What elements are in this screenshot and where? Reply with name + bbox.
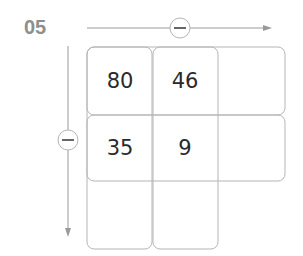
cell-r2-c3[interactable] [219,115,283,181]
horizontal-minus-icon [170,18,190,38]
vertical-minus-icon [58,130,78,150]
cell-r1-c1: 80 [88,48,152,114]
cell-r1-c3[interactable] [219,48,283,114]
cell-r2-c1: 35 [88,115,152,181]
cell-r1-c2: 46 [153,48,217,114]
cell-r3-c2[interactable] [153,182,217,248]
cell-r3-c1[interactable] [88,182,152,248]
cell-r2-c2: 9 [153,115,217,181]
